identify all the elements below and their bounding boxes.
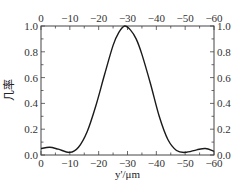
x-tick-label-top: 0 <box>38 12 44 24</box>
x-tick-label: −10 <box>61 157 79 169</box>
x-tick-label-top: −20 <box>90 12 108 24</box>
y-tick-label-right: 1.0 <box>217 20 231 32</box>
y-tick-label: 0.6 <box>24 72 38 84</box>
plot-frame <box>41 26 214 155</box>
y-tick-label-right: 0.4 <box>217 97 231 109</box>
y-tick-label-right: 0.2 <box>217 123 231 135</box>
x-tick-label-top: −30 <box>119 12 137 24</box>
y-tick-label: 1.0 <box>24 20 38 32</box>
x-tick-label: −40 <box>148 157 166 169</box>
y-tick-label-right: 0.8 <box>217 46 231 58</box>
y-axis-title: 几率 <box>2 79 15 101</box>
y-tick-label: 0.0 <box>24 149 38 161</box>
x-tick-label-top: −50 <box>177 12 195 24</box>
y-tick-label-right: 0.6 <box>217 72 231 84</box>
probability-chart: 00−10−10−20−20−30−30−40−40−50−50−60−600.… <box>0 0 237 187</box>
x-tick-label: −20 <box>90 157 108 169</box>
y-tick-label-right: 0.0 <box>217 149 231 161</box>
x-tick-label-top: −10 <box>61 12 79 24</box>
y-tick-label: 0.4 <box>24 97 38 109</box>
x-tick-label-top: −40 <box>148 12 166 24</box>
y-tick-label: 0.8 <box>24 46 38 58</box>
x-tick-label: 0 <box>38 157 44 169</box>
x-tick-label: −50 <box>177 157 195 169</box>
axis-ticks <box>41 26 214 155</box>
tick-labels: 00−10−10−20−20−30−30−40−40−50−50−60−600.… <box>24 12 231 169</box>
y-tick-label: 0.2 <box>24 123 38 135</box>
x-axis-title: y'/μm <box>115 168 140 180</box>
probability-curve <box>41 26 214 153</box>
